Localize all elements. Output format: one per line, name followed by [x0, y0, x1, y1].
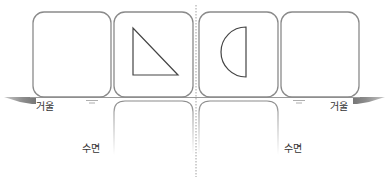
card-2	[114, 12, 193, 97]
card-4	[281, 12, 359, 97]
reflection-card-2	[114, 101, 193, 155]
card-3	[199, 12, 278, 97]
water-label-left: 수면	[82, 143, 100, 155]
diagram-canvas	[0, 0, 389, 177]
reflection-card-3	[199, 101, 278, 155]
water-marker-left	[86, 101, 98, 104]
card-1	[33, 12, 111, 97]
mirror-label-right: 거울	[330, 101, 348, 113]
mirror-label-left: 거울	[36, 101, 54, 113]
water-label-right: 수면	[284, 143, 302, 155]
water-marker-right	[293, 101, 305, 104]
